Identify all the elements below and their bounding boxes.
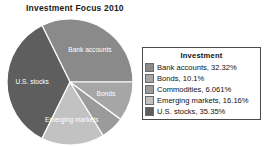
legend-color-swatch <box>145 96 154 105</box>
pie-svg: Bank accountsU.S. stocksEmerging markets… <box>0 0 142 146</box>
legend-entry: Commodities, 6.061% <box>145 84 258 95</box>
legend-title: Investment <box>145 50 258 62</box>
legend-color-swatch <box>145 85 154 94</box>
legend-color-swatch <box>145 107 154 116</box>
pie-slice-label: U.S. stocks <box>16 78 50 85</box>
pie-chart-figure: Investment Focus 2010 Bank accountsU.S. … <box>0 0 264 146</box>
legend-entry-label: Emerging markets, 16.16% <box>157 95 249 106</box>
legend-entry: U.S. stocks, 35.35% <box>145 106 258 117</box>
legend: Investment Bank accounts, 32.32%Bonds, 1… <box>142 47 261 120</box>
legend-entry-label: U.S. stocks, 35.35% <box>157 106 225 117</box>
pie-slice-label: Emerging markets <box>45 116 99 124</box>
pie-plot-area: Bank accountsU.S. stocksEmerging markets… <box>0 0 142 146</box>
legend-entry-list: Bank accounts, 32.32%Bonds, 10.1%Commodi… <box>145 62 258 117</box>
legend-entry: Bonds, 10.1% <box>145 73 258 84</box>
legend-entry-label: Bonds, 10.1% <box>157 73 204 84</box>
legend-entry-label: Bank accounts, 32.32% <box>157 62 237 73</box>
legend-entry: Bank accounts, 32.32% <box>145 62 258 73</box>
legend-entry: Emerging markets, 16.16% <box>145 95 258 106</box>
pie-slice-label: Bonds <box>97 90 116 97</box>
legend-entry-label: Commodities, 6.061% <box>157 84 231 95</box>
legend-color-swatch <box>145 74 154 83</box>
pie-slice-label: Bank accounts <box>68 46 112 53</box>
legend-color-swatch <box>145 63 154 72</box>
